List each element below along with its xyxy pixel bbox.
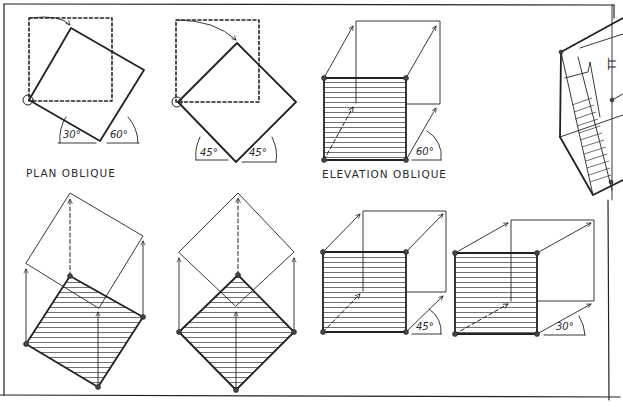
angle-label-60: 60°	[416, 146, 434, 157]
hatched-elevation-face	[324, 78, 406, 160]
angle-label-60: 60°	[110, 129, 128, 140]
plan-oblique-label: PLAN OBLIQUE	[26, 167, 116, 179]
angle-arc-60	[128, 117, 138, 143]
angle-label-30: 30°	[63, 129, 81, 140]
angle-label-45: 45°	[416, 321, 434, 332]
pivot-point-icon	[23, 95, 33, 105]
angle-label-45-left: 45°	[200, 147, 218, 158]
angle-arc-30	[579, 316, 585, 335]
figure-plan-oblique-45-45-extrusion	[177, 193, 297, 393]
hatched-plan-base	[26, 276, 143, 387]
hatched-elevation-face	[455, 253, 537, 334]
figure-elevation-oblique-60: 60°	[322, 21, 442, 163]
figure-elevation-oblique-45: 45°	[321, 211, 447, 335]
figure-elevation-oblique-30: 30°	[453, 220, 595, 337]
elevation-oblique-label: ELEVATION OBLIQUE	[322, 168, 447, 180]
figure-plan-oblique-30-60-extrusion	[24, 193, 146, 390]
original-plan-square-dashed	[176, 20, 259, 102]
stair-partial-text: TT	[607, 57, 618, 71]
figure-plan-oblique-45-45: 45° 45°	[172, 20, 296, 162]
rotation-arrow	[177, 20, 236, 40]
drawing-sheet: 30° 60° PLAN OBLIQUE 45° 45° 60° ELEVATI…	[0, 0, 623, 407]
angle-label-45-right: 45°	[249, 147, 267, 158]
angle-arc-45-right	[272, 137, 277, 162]
hatched-plan-base	[179, 275, 294, 390]
rotated-plan-square	[29, 28, 144, 141]
hatched-elevation-face	[323, 252, 406, 332]
figure-plan-oblique-30-60: 30° 60°	[23, 17, 144, 143]
angle-label-30: 30°	[556, 321, 574, 332]
figure-stair-section-partial: TT	[559, 5, 623, 200]
